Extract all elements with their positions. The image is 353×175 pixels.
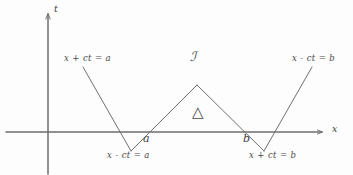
characteristic-line-x-minus-ct-eq-b <box>264 67 312 151</box>
characteristic-line-x-plus-ct-eq-a <box>83 67 131 151</box>
label-x-plus-ct-eq-b: x + ct = b <box>249 151 296 160</box>
characteristic-line-x-plus-ct-eq-b <box>197 85 264 151</box>
t-axis-label: t <box>54 4 58 14</box>
x-axis-label: x <box>332 124 337 134</box>
label-x-minus-ct-eq-a: x - ct = a <box>107 151 150 160</box>
diagram-canvas <box>0 0 353 175</box>
characteristic-line-x-minus-ct-eq-a <box>131 85 197 151</box>
point-label-b: b <box>243 133 250 144</box>
label-x-plus-ct-eq-a: x + ct = a <box>64 54 111 63</box>
label-x-minus-ct-eq-b: x - ct = b <box>292 54 335 63</box>
characteristic-triangle-diagram: x + ct = a x - ct = a x - ct = b x + ct … <box>0 0 353 175</box>
triangle-glyph-icon: △ <box>192 105 204 120</box>
point-label-a: a <box>143 133 150 144</box>
region-label-J: ℐ <box>190 50 196 63</box>
